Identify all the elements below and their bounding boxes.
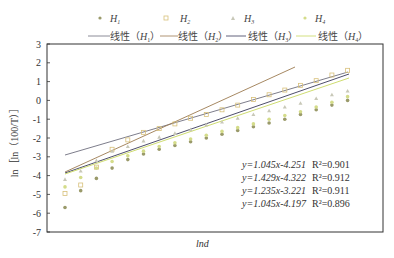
equation-3: y=1.235x-3.221R²=0.911: [241, 185, 349, 196]
data-point-h1: [267, 121, 271, 125]
y-tick-label: -7: [33, 227, 41, 238]
data-point-h3: [314, 97, 318, 101]
legend-h4-marker-icon: [303, 16, 306, 19]
y-tick-label: -5: [33, 189, 41, 200]
y-tick-label: -3: [33, 151, 41, 162]
fit-line-h2: [65, 67, 295, 172]
data-point-h4: [173, 141, 177, 145]
data-point-h4: [252, 122, 256, 126]
data-point-h4: [220, 130, 224, 134]
data-point-h4: [205, 133, 209, 137]
data-point-h4: [236, 126, 240, 130]
data-point-h4: [189, 137, 193, 141]
data-point-h1: [63, 206, 67, 210]
equation-1: y=1.045x-4.251R²=0.901: [241, 159, 350, 170]
chart: H1 H2 H3 H4 线性（H1） 线性（H2） 线性（H3） 线性（H4） …: [0, 0, 394, 258]
legend-fit-h3-label: 线性（H3）: [248, 30, 298, 43]
data-point-h4: [330, 100, 334, 104]
legend-h1-label: H1: [109, 13, 120, 25]
data-point-h3: [299, 101, 303, 105]
data-point-h1: [126, 158, 130, 162]
data-point-h3: [94, 159, 98, 163]
data-point-h1: [95, 177, 99, 181]
y-tick-label: 2: [36, 57, 41, 68]
data-point-h3: [157, 135, 161, 139]
legend-fit-h2-label: 线性（H2）: [178, 30, 228, 43]
data-point-h1: [79, 189, 83, 193]
data-point-h3: [283, 105, 287, 109]
data-point-h2: [79, 183, 83, 187]
data-point-h4: [95, 166, 99, 170]
data-point-h3: [126, 144, 130, 148]
legend-markers: H1 H2 H3 H4: [98, 13, 325, 25]
legend-h2-label: H2: [179, 13, 190, 25]
equation-4: y=1.045x-4.197R²=0.896: [241, 198, 350, 209]
data-point-h4: [79, 176, 83, 180]
data-point-h3: [251, 113, 255, 117]
data-point-h3: [346, 89, 350, 93]
legend-h2-marker-icon: [164, 16, 168, 20]
legend-h1-marker-icon: [98, 16, 101, 19]
data-point-h4: [346, 95, 350, 99]
data-point-h4: [63, 185, 67, 189]
fit-line-h3: [65, 74, 349, 173]
y-axis-title: ln［ln（100/T）］: [9, 103, 20, 177]
data-point-h3: [330, 93, 334, 97]
data-point-h2: [63, 191, 67, 195]
data-point-h2: [126, 138, 130, 142]
data-point-h3: [236, 116, 240, 120]
legend-lines: 线性（H1） 线性（H2） 线性（H3） 线性（H4）: [88, 30, 368, 43]
data-point-h4: [267, 117, 271, 121]
data-point-h1: [283, 117, 287, 121]
legend-h4-label: H4: [314, 13, 325, 25]
data-point-h1: [346, 99, 350, 103]
y-tick-label: -6: [33, 208, 41, 219]
data-point-h4: [126, 154, 130, 158]
data-point-h4: [283, 114, 287, 118]
data-point-h1: [110, 166, 114, 170]
y-tick-label: 3: [36, 39, 41, 50]
legend-fit-h1-label: 线性（H1）: [110, 30, 160, 43]
data-points: [63, 68, 350, 209]
y-tick-label: 1: [36, 76, 41, 87]
y-tick-label: 0: [36, 95, 41, 106]
data-point-h4: [157, 145, 161, 149]
equations: y=1.045x-4.251R²=0.901 y=1.429x-4.322R²=…: [241, 159, 350, 209]
legend-h3-label: H3: [243, 13, 254, 25]
data-point-h3: [173, 131, 177, 135]
data-point-h3: [142, 139, 146, 143]
y-tick-label: -1: [33, 114, 41, 125]
data-point-h4: [314, 105, 318, 109]
data-point-h3: [63, 177, 67, 181]
legend-fit-h4-label: 线性（H4）: [318, 30, 368, 43]
y-tick-label: -2: [33, 133, 41, 144]
fit-lines: [65, 67, 349, 174]
equation-2: y=1.429x-4.322R²=0.912: [241, 172, 350, 183]
data-point-h4: [110, 160, 114, 164]
data-point-h4: [299, 110, 303, 114]
fit-line-h1: [65, 72, 348, 155]
x-axis-title: lnd: [196, 238, 210, 249]
legend-h3-marker-icon: [231, 16, 235, 20]
data-point-h4: [142, 149, 146, 153]
y-tick-label: -4: [33, 170, 41, 181]
data-point-h3: [267, 109, 271, 113]
